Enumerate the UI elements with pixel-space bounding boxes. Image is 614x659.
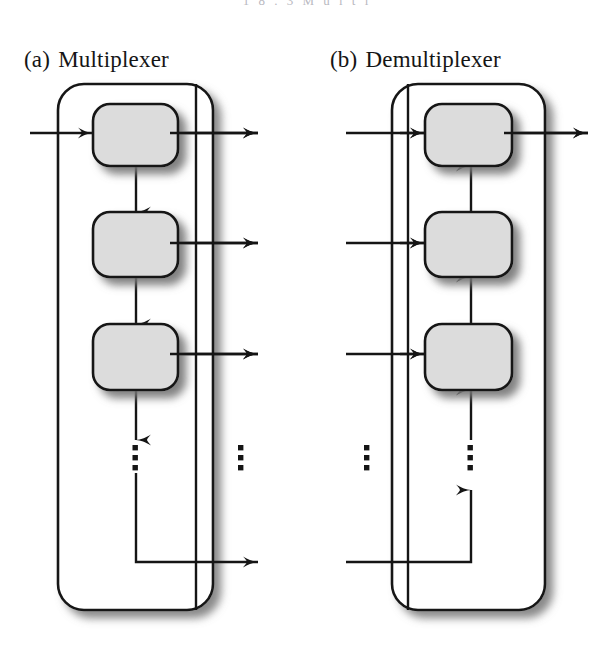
demux-stage-box-3 [425,324,512,390]
mux-stage-box-2 [93,212,178,277]
mux-inner-ellipsis [133,445,138,470]
mux-stage-box-3 [93,324,178,390]
mux-stage-box-1 [93,104,178,166]
figure-root: 1 8 . 3 M u l t i (a)Multiplexer (b)Demu… [0,0,614,659]
multiplexer-stages [93,104,178,390]
panel-multiplexer [30,84,258,610]
demux-inner-ellipsis [468,445,473,470]
mux-outer-ellipsis [238,445,243,470]
demultiplexer-stages [425,104,512,390]
demux-outer-ellipsis [364,445,369,470]
multiplexer-demultiplexer-diagram [0,0,614,659]
demux-stage-box-1 [425,104,512,166]
panel-demultiplexer [346,84,588,610]
demux-stage-box-2 [425,212,512,277]
